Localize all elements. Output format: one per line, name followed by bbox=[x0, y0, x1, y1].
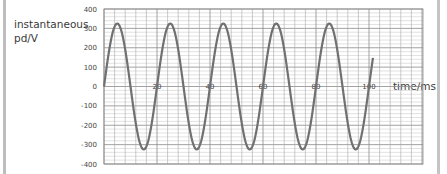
y-tick-label: -400 bbox=[81, 161, 97, 169]
sine-wave-chart: 4003002001000-100-200-300-40020406080100 bbox=[0, 0, 447, 174]
y-tick-label: 0 bbox=[93, 83, 97, 91]
y-tick-label: 200 bbox=[84, 44, 97, 52]
y-tick-label: 300 bbox=[84, 25, 97, 33]
y-tick-label: -200 bbox=[81, 122, 97, 130]
y-tick-label: 400 bbox=[84, 6, 97, 14]
y-tick-label: -300 bbox=[81, 141, 97, 149]
y-tick-label: 100 bbox=[84, 64, 97, 72]
y-tick-label: -100 bbox=[81, 102, 97, 110]
